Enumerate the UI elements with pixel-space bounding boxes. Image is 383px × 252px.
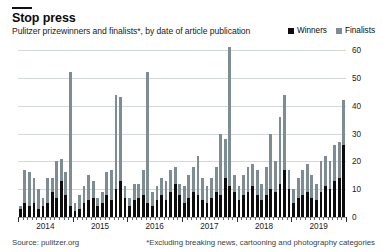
bar-segment-winners [279, 184, 282, 217]
bar-segment-finalists [251, 164, 254, 186]
x-tick [91, 217, 92, 220]
bar-segment-winners [215, 192, 218, 217]
bar-2015-07 [101, 192, 104, 217]
x-tick [146, 217, 147, 220]
bar-2014-01 [19, 206, 22, 217]
bar-segment-winners [265, 195, 268, 217]
bar-segment-winners [160, 195, 163, 217]
bar-2014-07 [46, 178, 49, 217]
x-tick [310, 217, 311, 220]
bar-segment-finalists [310, 175, 313, 197]
bar-segment-finalists [269, 134, 272, 190]
bar-segment-finalists [146, 72, 149, 203]
x-tick [282, 217, 283, 220]
bar-segment-finalists [329, 161, 332, 189]
chart-legend: WinnersFinalists [288, 26, 375, 35]
bar-segment-finalists [28, 172, 31, 205]
bar-segment-winners [83, 203, 86, 217]
bar-segment-winners [151, 206, 154, 217]
bar-segment-winners [156, 200, 159, 217]
bar-segment-finalists [133, 184, 136, 201]
bar-segment-finalists [333, 145, 336, 181]
bar-segment-winners [69, 206, 72, 217]
bar-2019-05 [310, 175, 313, 217]
bar-segment-finalists [283, 95, 286, 170]
bar-segment-finalists [233, 175, 236, 192]
x-tick [255, 217, 256, 220]
x-tick [64, 217, 65, 220]
bar-2018-12 [288, 170, 291, 217]
x-tick [223, 217, 224, 220]
bar-2018-10 [279, 117, 282, 217]
bar-2019-04 [306, 164, 309, 217]
bar-2016-04 [142, 170, 145, 217]
x-tick [118, 217, 119, 220]
bar-segment-finalists [187, 175, 190, 197]
bar-segment-finalists [128, 198, 131, 206]
bar-segment-winners [165, 200, 168, 217]
bar-segment-winners [338, 178, 341, 217]
bar-segment-finalists [215, 167, 218, 192]
bar-segment-finalists [165, 181, 168, 200]
bar-2017-02 [187, 175, 190, 217]
x-tick [228, 217, 229, 220]
bar-segment-winners [306, 192, 309, 217]
bar-segment-finalists [242, 175, 245, 194]
bar-segment-finalists [105, 172, 108, 194]
bar-2018-08 [269, 134, 272, 218]
page-subtitle: Pulitzer prizewinners and finalists*, by… [12, 26, 250, 37]
x-tick [114, 217, 115, 220]
bar-segment-winners [269, 189, 272, 217]
x-tick [341, 217, 342, 220]
legend-label: Finalists [345, 26, 375, 35]
bar-segment-finalists [301, 170, 304, 195]
bar-segment-finalists [197, 156, 200, 195]
bar-segment-winners [115, 189, 118, 217]
bar-segment-winners [146, 203, 149, 217]
x-tick [136, 217, 137, 220]
x-tick [273, 217, 274, 220]
bar-2017-01 [183, 186, 186, 217]
bar-2015-04 [87, 175, 90, 217]
bar-segment-finalists [119, 97, 122, 181]
x-tick [250, 217, 251, 220]
bar-segment-winners [192, 192, 195, 217]
bar-segment-winners [87, 200, 90, 217]
bar-2019-06 [315, 184, 318, 217]
bar-segment-winners [187, 198, 190, 217]
x-tick [23, 217, 24, 220]
source-note: Source: pulitzer.org [12, 238, 79, 247]
bar-segment-finalists [101, 192, 104, 203]
x-tick [246, 217, 247, 220]
bar-2017-07 [210, 178, 213, 217]
bar-segment-finalists [110, 170, 113, 201]
bar-2014-05 [37, 189, 40, 217]
bar-segment-finalists [51, 178, 54, 192]
x-tick [287, 217, 288, 220]
bar-segment-finalists [292, 189, 295, 203]
bar-segment-finalists [174, 167, 177, 184]
x-tick [264, 217, 265, 220]
bar-segment-finalists [247, 167, 250, 192]
bar-segment-finalists [78, 195, 81, 209]
bar-segment-winners [19, 209, 22, 217]
bar-segment-finalists [87, 175, 90, 200]
bar-2019-01 [292, 189, 295, 217]
bar-2014-10 [60, 159, 63, 217]
x-tick [187, 217, 188, 220]
x-tick-label-2014: 2014 [36, 222, 54, 231]
bar-segment-winners [142, 195, 145, 217]
legend-item-finalists: Finalists [336, 26, 375, 35]
bar-segment-finalists [192, 167, 195, 192]
page-title: Stop press [12, 11, 76, 25]
legend-item-winners: Winners [288, 26, 327, 35]
bar-2018-09 [274, 161, 277, 217]
bar-segment-winners [42, 206, 45, 217]
bar-segment-finalists [338, 142, 341, 178]
bar-2014-02 [23, 170, 26, 217]
x-tick [54, 217, 55, 220]
bar-2016-09 [165, 181, 168, 217]
legend-swatch-icon [288, 28, 294, 34]
bar-segment-finalists [297, 178, 300, 197]
bar-segment-winners [37, 209, 40, 217]
